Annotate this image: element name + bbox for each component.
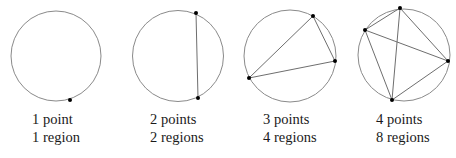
points-count-label: 1 point [32,110,80,128]
points-count-label: 4 points [376,110,430,128]
chord-line [249,61,335,78]
chord-line [365,30,392,100]
chord-line [392,61,448,100]
panel-3 [244,10,337,102]
regions-count-label: 4 regions [263,128,317,146]
point-marker [247,76,251,80]
panel-4 [358,6,450,102]
point-marker [311,14,315,18]
points-count-label: 2 points [150,110,204,128]
chord-line [365,8,400,30]
panel-4-caption: 4 points 8 regions [376,110,430,146]
panel-3-caption: 3 points 4 regions [263,110,317,146]
chord-line [196,13,198,98]
point-marker [196,96,200,100]
chord-line [313,16,335,61]
point-marker [363,28,367,32]
point-marker [68,98,72,102]
regions-count-label: 2 regions [150,128,204,146]
regions-count-label: 8 regions [376,128,430,146]
point-marker [446,59,450,63]
circle-outline [358,9,450,101]
point-marker [398,6,402,10]
circle-outline [133,11,224,102]
circle-outline [244,10,336,102]
point-marker [390,98,394,102]
panel-1-caption: 1 point 1 region [32,110,80,146]
circle-outline [11,11,101,101]
chord-line [249,16,313,78]
points-count-label: 3 points [263,110,317,128]
point-marker [194,11,198,15]
panel-1 [11,11,101,102]
chord-line [392,8,400,100]
panel-2 [133,11,224,102]
regions-count-label: 1 region [32,128,80,146]
chord-line [365,30,448,61]
point-marker [333,59,337,63]
panel-2-caption: 2 points 2 regions [150,110,204,146]
chord-line [400,8,448,61]
